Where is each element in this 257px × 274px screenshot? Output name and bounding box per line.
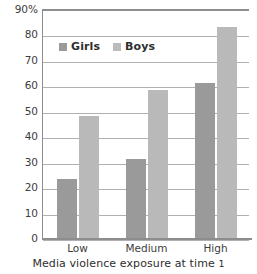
y-axis-tick-label: 50 bbox=[0, 106, 38, 116]
legend-entry-boys: Boys bbox=[113, 41, 155, 52]
bar-medium-boys bbox=[148, 90, 168, 238]
y-axis-tick-label: 60 bbox=[0, 80, 38, 90]
y-axis-tick-label: 20 bbox=[0, 182, 38, 192]
y-axis-tick-label: 70 bbox=[0, 55, 38, 65]
y-axis-tick-label: 40 bbox=[0, 131, 38, 141]
bar-high-girls bbox=[195, 83, 215, 238]
bar-low-girls bbox=[57, 179, 77, 238]
legend-label-boys: Boys bbox=[125, 41, 155, 52]
boys-swatch-icon bbox=[113, 43, 121, 51]
x-axis-category-label: High bbox=[181, 243, 250, 254]
bar-low-boys bbox=[79, 116, 99, 238]
y-axis-tick-label: 0 bbox=[0, 233, 38, 243]
x-axis-labels: LowMediumHigh bbox=[43, 243, 249, 257]
x-axis-title: Media violence exposure at time 1 bbox=[0, 258, 257, 270]
x-axis-line bbox=[42, 238, 252, 240]
legend-entry-girls: Girls bbox=[59, 41, 100, 52]
bar-chart: 90%80706050403020100 Girls Boys LowMediu… bbox=[0, 0, 257, 274]
axis-title-numeral: 1 bbox=[218, 258, 224, 269]
y-axis-tick-label: 90% bbox=[0, 4, 38, 14]
bar-medium-girls bbox=[126, 159, 146, 238]
chart-legend: Girls Boys bbox=[56, 40, 158, 53]
gridline bbox=[43, 240, 249, 241]
bar-group bbox=[181, 9, 250, 238]
girls-swatch-icon bbox=[59, 43, 67, 51]
y-axis-tick-label: 80 bbox=[0, 29, 38, 39]
x-axis-category-label: Medium bbox=[112, 243, 181, 254]
x-axis-category-label: Low bbox=[43, 243, 112, 254]
bar-high-boys bbox=[217, 27, 237, 238]
legend-label-girls: Girls bbox=[71, 41, 100, 52]
y-axis-tick-label: 30 bbox=[0, 157, 38, 167]
y-axis-tick-label: 10 bbox=[0, 208, 38, 218]
